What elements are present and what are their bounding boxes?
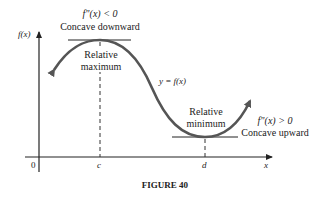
x-axis-label: x xyxy=(263,160,268,170)
max-concavity: Concave downward xyxy=(60,21,140,32)
max-label-line1: Relative xyxy=(84,49,118,60)
min-label-line1: Relative xyxy=(189,106,223,117)
min-condition: f"(x) > 0 xyxy=(258,115,293,127)
y-axis-label: f(x) xyxy=(18,29,31,39)
min-concavity: Concave upward xyxy=(241,127,308,138)
max-label-line2: maximum xyxy=(81,61,122,72)
origin-label: 0 xyxy=(31,160,36,170)
max-condition: f"(x) < 0 xyxy=(83,8,118,20)
figure-40: f(x) x 0 c d f"(x) < 0 Concave downward … xyxy=(0,0,329,199)
point-c-label: c xyxy=(97,160,101,170)
curve-label: y = f(x) xyxy=(158,76,186,86)
point-d-label: d xyxy=(202,160,207,170)
concavity-diagram: f(x) x 0 c d f"(x) < 0 Concave downward … xyxy=(0,0,329,199)
min-label-line2: minimum xyxy=(187,118,226,129)
figure-caption: FIGURE 40 xyxy=(142,180,189,190)
